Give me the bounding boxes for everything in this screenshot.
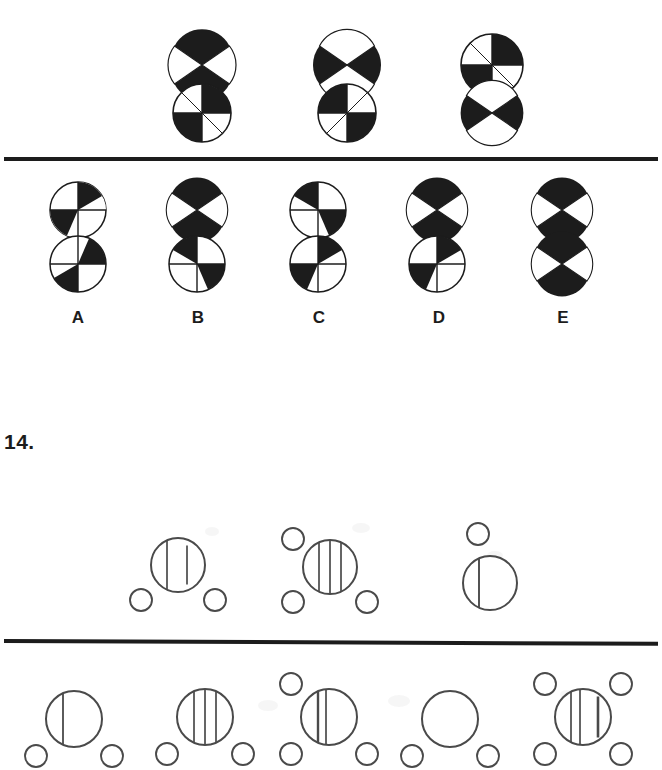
small-circle-bottom-left [534,743,556,765]
small-circle-top-left [534,673,556,695]
small-circle-top-left [280,673,302,695]
small-circle-bottom-right [477,745,499,767]
top-circle [290,182,346,238]
q14-stimulus-figure-1 [128,534,228,614]
q13-option-label-E[interactable]: E [548,308,578,328]
small-circle-bottom-left [25,745,47,767]
small-circle-bottom-left [156,743,178,765]
q14-option-B-figure[interactable] [153,684,257,768]
main-circle [422,691,478,747]
small-circle-bottom-left [280,743,302,765]
q14-stimulus-figure-3 [440,516,540,616]
small-circle-bottom-right [610,743,632,765]
q13-option-label-A[interactable]: A [63,308,93,328]
main-circle [46,691,102,747]
q13-option-C-figure[interactable] [287,181,351,293]
small-circle-bottom-right [356,743,378,765]
bottom-circle [318,84,376,142]
small-circle-bottom-left [401,745,423,767]
divider-rule-q13 [4,157,658,161]
question-14-number: 14. [4,430,35,454]
q13-stimulus-figure-1 [166,32,238,144]
small-circle-bottom-left [130,589,152,611]
q14-option-E-figure[interactable] [528,670,638,770]
main-circle [151,538,205,592]
small-circle-top-left [282,528,304,550]
main-circle [555,689,611,745]
small-circle-bottom-left [282,591,304,613]
small-circle-top-left [467,523,489,545]
q14-stimulus-figure-2 [280,526,380,616]
small-circle-bottom-right [356,591,378,613]
q13-option-label-D[interactable]: D [424,308,454,328]
q13-stimulus-figure-2 [311,32,383,144]
top-circle [50,182,106,238]
top-circle [406,178,468,243]
q13-option-A-figure[interactable] [47,181,111,293]
q13-stimulus-figure-3 [456,32,528,144]
bottom-circle [531,232,593,297]
bottom-circle [290,236,346,292]
q13-option-label-C[interactable]: C [304,308,334,328]
bottom-circle [409,236,465,292]
q13-option-B-figure[interactable] [166,181,230,293]
small-circle-top-right [610,673,632,695]
bottom-circle [461,80,524,145]
q14-option-C-figure[interactable] [273,670,377,770]
q14-option-A-figure[interactable] [22,688,126,768]
q14-option-D-figure[interactable] [398,688,502,768]
top-circle [166,178,228,243]
q13-option-label-B[interactable]: B [183,308,213,328]
main-circle [463,556,517,610]
bottom-circle [169,236,225,292]
bottom-circle [173,84,231,142]
divider-rule-q14 [4,639,658,646]
q13-option-E-figure[interactable] [531,181,595,293]
main-circle [301,689,357,745]
bottom-circle [50,236,106,292]
small-circle-bottom-right [204,589,226,611]
q13-option-D-figure[interactable] [406,181,470,293]
small-circle-bottom-right [232,743,254,765]
small-circle-bottom-right [101,745,123,767]
